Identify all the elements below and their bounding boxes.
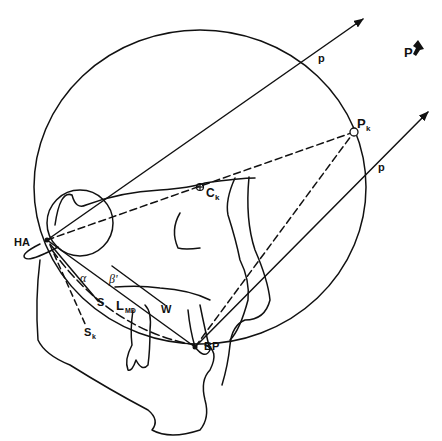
dashed-sk (50, 245, 86, 326)
ck-marker (196, 183, 204, 191)
label-w: W (161, 303, 172, 315)
orbit-curve (174, 213, 200, 249)
label-lmd: L (116, 298, 124, 313)
label-force-bottom: p (378, 161, 385, 173)
force-arrow-top (47, 19, 363, 240)
label-bite-point: BP (204, 340, 219, 352)
label-force-legend: P (404, 45, 413, 60)
bp-point (193, 345, 198, 350)
label-hinge-axis: HA (14, 236, 30, 248)
label-force-top: p (318, 52, 325, 64)
face-profile-2 (222, 177, 270, 385)
label-alpha: α (80, 271, 87, 285)
label-lmd-sub: MD (125, 307, 136, 314)
ha-point (45, 238, 50, 243)
label-s: S (97, 296, 104, 308)
diagram-canvas: p p P P k C k HA BP α β' S S k L MD W (0, 0, 442, 441)
label-pk-sub: k (366, 124, 371, 133)
label-pk: P (357, 116, 366, 131)
line-ha-bp (47, 240, 195, 347)
tooth-molar (127, 305, 151, 370)
maxilla-line (115, 286, 210, 300)
face-profile (227, 178, 248, 340)
label-sk: S (84, 326, 91, 338)
label-sk-sub: k (92, 333, 96, 340)
force-legend-arrow-icon (413, 40, 424, 56)
label-beta: β' (108, 272, 118, 286)
label-ck-sub: k (215, 193, 220, 202)
dashed-bp-pk (195, 132, 354, 347)
label-ck: C (206, 186, 215, 200)
